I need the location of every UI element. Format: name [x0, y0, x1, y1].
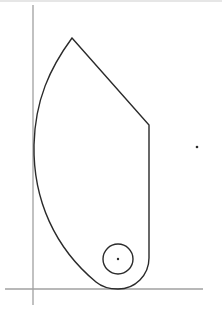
profile-outline[interactable]	[34, 38, 149, 289]
isolated-point[interactable]	[196, 146, 199, 149]
sketch-canvas[interactable]	[0, 0, 222, 309]
hole-center-point[interactable]	[117, 258, 119, 260]
